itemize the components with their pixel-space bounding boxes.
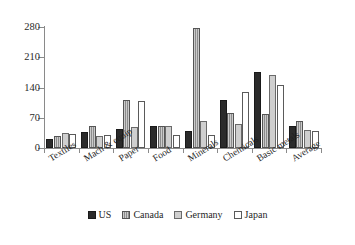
- legend-label-canada: Canada: [133, 210, 163, 220]
- legend-label-us: US: [99, 210, 112, 220]
- bar-canada-minerals: [193, 28, 200, 148]
- bar-chart: 070140210280 TextilesMach & equipPaperFo…: [0, 0, 355, 245]
- x-axis-tick: [252, 148, 253, 153]
- bar-group: [79, 27, 114, 148]
- bar-canada-mach-equip: [89, 126, 96, 148]
- legend-item-germany[interactable]: Germany: [174, 210, 222, 220]
- bar-group: [148, 27, 183, 148]
- bar-japan-paper: [138, 101, 145, 148]
- bar-group: [44, 27, 79, 148]
- chart-legend: USCanadaGermanyJapan: [0, 210, 355, 220]
- x-axis-tick: [217, 148, 218, 153]
- legend-swatch-canada: [122, 211, 130, 219]
- legend-swatch-us: [88, 211, 96, 219]
- bar-group: [183, 27, 218, 148]
- legend-item-canada[interactable]: Canada: [122, 210, 163, 220]
- legend-item-us[interactable]: US: [88, 210, 112, 220]
- bar-japan-food: [173, 135, 180, 148]
- bar-canada-food: [158, 126, 165, 148]
- x-axis-tick: [286, 148, 287, 153]
- bar-canada-basic-metals: [262, 114, 269, 148]
- x-axis-tick: [183, 148, 184, 153]
- legend-swatch-japan: [234, 211, 242, 219]
- plot-area: [44, 27, 321, 148]
- x-axis-tick: [321, 148, 322, 153]
- legend-label-germany: Germany: [185, 210, 222, 220]
- bar-germany-basic-metals: [269, 75, 276, 148]
- x-axis-tick: [148, 148, 149, 153]
- y-axis-tick-label: 210: [24, 52, 40, 62]
- bar-canada-chemicals: [227, 113, 234, 148]
- y-axis-tick-label: 0: [35, 143, 40, 153]
- bar-group: [252, 27, 287, 148]
- bar-group: [286, 27, 321, 148]
- x-axis-tick: [113, 148, 114, 153]
- y-axis-tick-label: 280: [24, 22, 40, 32]
- y-axis-tick-label: 140: [24, 83, 40, 93]
- bar-us-food: [150, 126, 157, 148]
- y-axis-tick-label: 70: [30, 113, 41, 123]
- bar-group: [217, 27, 252, 148]
- bar-canada-paper: [123, 100, 130, 148]
- legend-label-japan: Japan: [245, 210, 268, 220]
- bar-us-minerals: [185, 131, 192, 148]
- legend-swatch-germany: [174, 211, 182, 219]
- bar-us-chemicals: [220, 100, 227, 148]
- bar-us-textiles: [46, 139, 53, 148]
- legend-item-japan[interactable]: Japan: [234, 210, 268, 220]
- bar-us-mach-equip: [81, 132, 88, 148]
- x-axis-tick: [79, 148, 80, 153]
- x-axis-tick: [44, 148, 45, 153]
